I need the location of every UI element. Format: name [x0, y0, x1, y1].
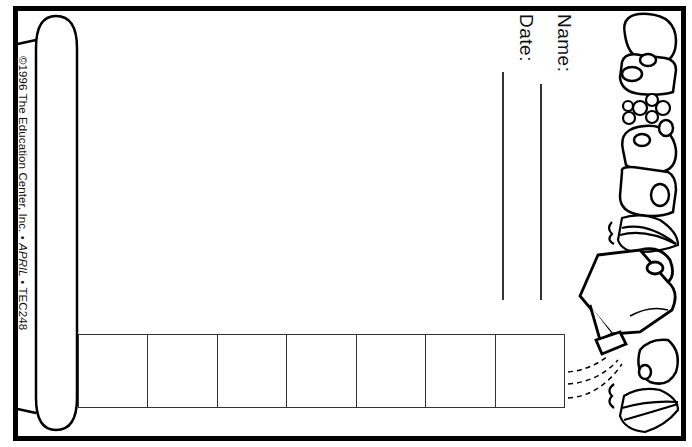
- date-line[interactable]: [502, 72, 504, 300]
- copyright-text: ©1996 The Education Center, Inc. • APRIL…: [17, 56, 29, 330]
- onion-icon: [609, 215, 678, 252]
- onion-icon: [609, 384, 678, 432]
- answer-box-3[interactable]: [218, 335, 287, 407]
- watering-can-icon: [580, 249, 675, 354]
- copyright-month: APRIL: [17, 243, 29, 277]
- name-label: Name:: [553, 14, 575, 72]
- copyright-suffix: • TEC248: [17, 277, 29, 330]
- answer-box-2[interactable]: [148, 335, 217, 407]
- answer-box-7[interactable]: [496, 335, 564, 407]
- answer-box-5[interactable]: [357, 335, 426, 407]
- flower-icon: [620, 14, 676, 95]
- answer-box-1[interactable]: [79, 335, 148, 407]
- answer-box-row: [78, 334, 565, 408]
- answer-box-6[interactable]: [426, 335, 495, 407]
- flower-icon: [638, 340, 677, 384]
- flower-icon: [620, 120, 676, 216]
- water-drops-icon: [568, 356, 622, 398]
- answer-box-4[interactable]: [287, 335, 356, 407]
- copyright-prefix: ©1996 The Education Center, Inc. •: [17, 56, 29, 243]
- date-label: Date:: [515, 14, 537, 62]
- name-line[interactable]: [540, 84, 542, 300]
